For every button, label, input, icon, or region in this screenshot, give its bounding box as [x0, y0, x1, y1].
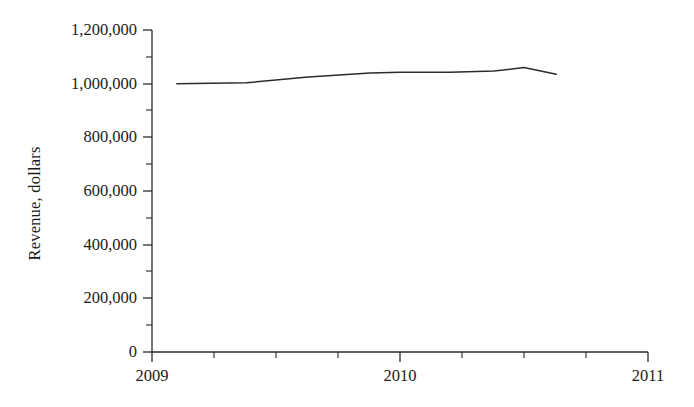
y-tick-label-1200000: 1,200,000	[4, 22, 137, 39]
revenue-line-chart: Revenue, dollars 1,200,000 1,000,000 800…	[0, 0, 694, 407]
y-tick-label-400000: 400,000	[4, 237, 137, 254]
y-tick-label-600000: 600,000	[4, 183, 137, 200]
y-tick-label-0: 0	[4, 344, 137, 361]
y-tick-label-800000: 800,000	[4, 129, 137, 146]
y-tick-label-200000: 200,000	[4, 290, 137, 307]
x-axis	[152, 352, 648, 362]
data-series-revenue	[177, 68, 556, 84]
x-tick-label-2010: 2010	[384, 368, 417, 385]
x-tick-label-2011: 2011	[632, 368, 664, 385]
y-tick-label-1000000: 1,000,000	[4, 76, 137, 93]
y-axis	[143, 30, 152, 352]
x-tick-label-2009: 2009	[136, 368, 169, 385]
